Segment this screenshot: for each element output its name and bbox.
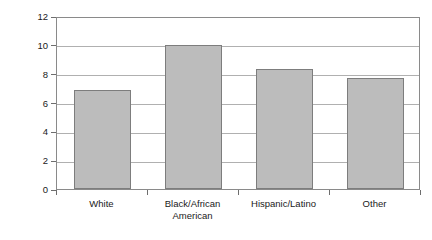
bar bbox=[74, 90, 131, 189]
y-tick-label: 12 bbox=[18, 12, 48, 22]
x-axis-category-label-line: White bbox=[89, 198, 113, 209]
bar-chart: Rate per 1,000 in the population 0246810… bbox=[0, 0, 432, 240]
x-axis-category-label: Other bbox=[329, 198, 420, 210]
y-tick-label: 10 bbox=[18, 41, 48, 51]
gridline bbox=[57, 46, 419, 47]
x-axis-category-label: Hispanic/Latino bbox=[238, 198, 329, 210]
x-axis-category-label-line: American bbox=[147, 210, 238, 222]
x-tick-mark bbox=[238, 190, 239, 195]
bar bbox=[165, 45, 222, 189]
x-axis-category-label: Black/AfricanAmerican bbox=[147, 198, 238, 221]
y-tick-label: 0 bbox=[18, 185, 48, 195]
x-tick-mark bbox=[329, 190, 330, 195]
plot-area bbox=[56, 17, 420, 190]
y-tick-label: 4 bbox=[18, 128, 48, 138]
x-tick-mark bbox=[420, 190, 421, 195]
x-axis-category-label: White bbox=[56, 198, 147, 210]
y-tick-label: 6 bbox=[18, 99, 48, 109]
bar bbox=[256, 69, 313, 189]
x-axis-category-label-line: Other bbox=[363, 198, 387, 209]
x-axis-category-label-line: Black/African bbox=[165, 198, 220, 209]
x-tick-mark bbox=[147, 190, 148, 195]
gridline bbox=[57, 75, 419, 76]
y-tick-label: 2 bbox=[18, 156, 48, 166]
x-axis-category-label-line: Hispanic/Latino bbox=[251, 198, 316, 209]
x-tick-mark bbox=[56, 190, 57, 195]
bar bbox=[347, 78, 404, 189]
y-tick-label: 8 bbox=[18, 70, 48, 80]
